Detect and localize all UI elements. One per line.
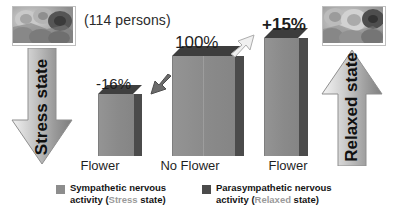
stress-state-arrow: Stress state: [10, 48, 74, 166]
legend-label-parasympathetic: Parasympathetic nervous activity (Relaxe…: [216, 182, 332, 206]
category-axis-labels: Flower No Flower Flower: [60, 158, 340, 176]
bar-front-face: [98, 94, 134, 156]
legend-activity-prefix: activity (: [216, 194, 255, 205]
category-label-flower-1: Flower: [60, 158, 140, 173]
legend-item-parasympathetic: Parasympathetic nervous activity (Relaxe…: [202, 182, 332, 206]
legend-state-stress: Stress: [109, 194, 138, 205]
flower-photo-right-image: [323, 7, 383, 43]
legend-label-sympathetic: Sympathetic nervous activity (Stress sta…: [70, 182, 166, 206]
bar-side-face: [298, 38, 308, 156]
bar-flower-relaxed: [264, 38, 308, 156]
legend-line-1: Sympathetic nervous: [70, 182, 166, 193]
flower-photo-left-image: [13, 7, 73, 43]
legend-swatch-parasympathetic: [202, 185, 211, 194]
chart-legend: Sympathetic nervous activity (Stress sta…: [56, 182, 356, 212]
up-arrow-icon: [320, 48, 384, 166]
bar-flower-stress: [98, 94, 142, 156]
bar-side-face: [133, 94, 142, 156]
flower-photo-right: [322, 6, 386, 46]
bar-value-noflower: 100%: [175, 33, 218, 53]
legend-activity-suffix: state): [138, 194, 166, 205]
increase-arrow-icon: [230, 32, 264, 58]
legend-activity-suffix: state): [291, 194, 319, 205]
increase-arrow: [230, 32, 264, 58]
decrease-arrow: [142, 74, 172, 98]
bar-side-face: [234, 56, 244, 156]
bar-value-flower-stress: -16%: [96, 75, 131, 92]
legend-line-1: Parasympathetic nervous: [216, 182, 332, 193]
bar-front-face: [264, 38, 299, 156]
category-label-noflower: No Flower: [150, 158, 230, 173]
down-arrow-icon: [10, 48, 74, 166]
legend-swatch-sympathetic: [56, 185, 65, 194]
bar-value-flower-relaxed: +15%: [262, 15, 306, 35]
legend-item-sympathetic: Sympathetic nervous activity (Stress sta…: [56, 182, 166, 206]
bar-series-divider: [203, 56, 204, 156]
bar-noflower: [172, 56, 244, 156]
legend-state-relaxed: Relaxed: [255, 194, 291, 205]
infographic-chart: (114 persons) Stress state: [0, 0, 393, 213]
category-label-flower-2: Flower: [248, 158, 328, 173]
bar-chart-plot: -16% 100% +15%: [78, 14, 322, 156]
decrease-arrow-icon: [142, 74, 172, 98]
legend-activity-prefix: activity (: [70, 194, 109, 205]
flower-photo-left: [12, 6, 76, 46]
relaxed-state-arrow: Relaxed state: [320, 48, 384, 166]
